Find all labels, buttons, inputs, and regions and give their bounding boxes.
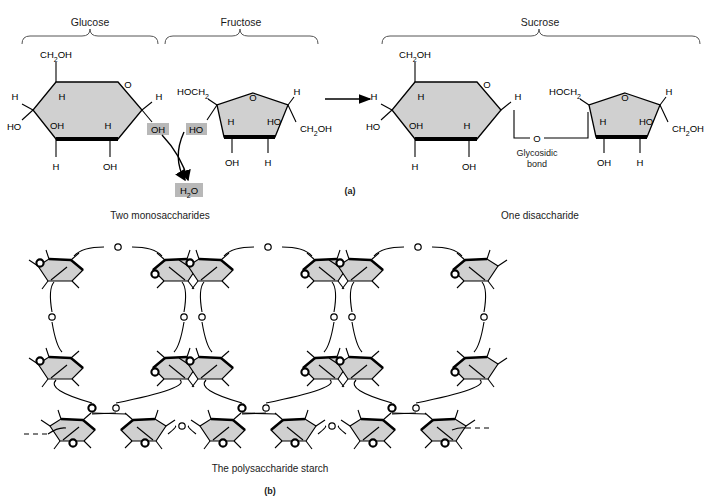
glucose-ring-unit — [188, 357, 233, 379]
bond-line — [208, 410, 211, 419]
bond-line — [199, 259, 221, 260]
bond-line — [433, 419, 455, 420]
bond-path — [132, 247, 162, 256]
bond-line — [71, 351, 79, 358]
bond-line — [204, 441, 210, 449]
bond-line — [487, 348, 490, 357]
bond-line — [187, 348, 190, 357]
bond-line — [221, 253, 229, 260]
glucose-label-h-left: H — [12, 91, 19, 102]
bond-line — [199, 357, 221, 358]
bridge-oxygen-icon — [238, 404, 245, 411]
sucrose-glucose-label-oh-bottom: OH — [462, 161, 476, 172]
bond-path — [474, 322, 484, 352]
bond-line — [54, 441, 60, 449]
bond-path — [432, 247, 462, 256]
glucose-ring-unit — [338, 259, 383, 281]
bond-line — [234, 441, 241, 448]
glucose-label-oh-bottom: OH — [103, 161, 117, 172]
glucose-ring-unit — [38, 259, 83, 281]
bridge-oxygen-icon — [481, 314, 487, 320]
sucrose-fructose-label-ch2oh: CH2OH — [672, 123, 704, 137]
bridge-oxygen-icon — [291, 439, 298, 446]
brace-label-sucrose: Sucrose — [521, 16, 560, 28]
sucrose-fructose-label-ring-o: O — [621, 92, 628, 103]
bond-path — [54, 380, 92, 403]
bond-line — [337, 348, 340, 357]
bond-line — [466, 420, 475, 426]
bond-line — [372, 379, 379, 386]
bridge-oxygen-icon — [115, 244, 121, 250]
bridge-oxygen-icon — [181, 314, 187, 320]
sucrose-glucose-label-h-inner-right: H — [464, 120, 471, 131]
bridge-oxygen-icon — [151, 368, 158, 375]
bond-line — [72, 379, 79, 386]
bond-line — [358, 410, 361, 419]
glucose-label-ho: HO — [7, 121, 21, 132]
glycosidic-oxygen-label: O — [533, 133, 540, 144]
bond-path — [318, 426, 326, 434]
bond-line — [61, 419, 83, 420]
sucrose-fructose-label-h-inner: H — [600, 116, 607, 127]
bond-line — [211, 419, 233, 420]
bond-path — [50, 282, 54, 312]
bond-line — [283, 419, 305, 420]
bridge-oxygen-icon — [336, 357, 343, 364]
sucrose-glucose-label-ch2oh: CH2OH — [399, 49, 431, 63]
bond-path — [174, 322, 184, 352]
bond-line — [307, 281, 314, 288]
bridge-oxygen-icon — [36, 357, 43, 364]
bond-line — [372, 281, 379, 288]
bond-path — [266, 380, 331, 403]
bond-path — [332, 282, 336, 312]
brace-label-fructose: Fructose — [221, 16, 262, 28]
bond-path — [182, 282, 186, 312]
bond-line — [342, 281, 348, 289]
bridge-oxygen-icon — [186, 357, 193, 364]
bridge-oxygen-icon — [36, 259, 43, 266]
bond-line — [384, 441, 391, 448]
bond-line — [498, 260, 507, 266]
bond-line — [191, 420, 200, 426]
bond-line — [221, 351, 229, 358]
bond-line — [42, 281, 48, 289]
bond-line — [342, 379, 348, 387]
bridge-oxygen-icon — [388, 404, 395, 411]
bridge-oxygen-icon — [369, 439, 376, 446]
sucrose-fructose-ring: HOCH2 O H H HO CH2OH OH H — [549, 86, 704, 168]
bridge-oxygen-icon — [415, 244, 421, 250]
bond-line — [457, 253, 465, 260]
caption-two-monosaccharides: Two monosaccharides — [110, 210, 210, 221]
fructose-label-oh-bottom: OH — [225, 157, 239, 168]
bridge-oxygen-icon — [263, 405, 269, 411]
glucose-ring-unit — [271, 419, 316, 441]
bond-path — [224, 247, 254, 256]
chemistry-figure-svg: Glucose Fructose Sucrose CH2OH O H H HO … — [0, 0, 709, 500]
sucrose-fructose-label-h-bottom: H — [637, 157, 644, 168]
starch-polysaccharide-structure — [24, 244, 507, 449]
bridge-oxygen-icon — [329, 423, 335, 429]
bond-line — [275, 413, 283, 420]
panel-label-b: (b) — [264, 486, 276, 496]
bond-line — [72, 281, 79, 288]
glucose-ring-unit — [50, 419, 95, 441]
glucose-label-oh-inner: OH — [50, 120, 64, 131]
bridge-oxygen-icon — [49, 314, 55, 320]
bond-line — [346, 250, 349, 259]
glucose-label-ring-o: O — [124, 79, 131, 90]
caption-one-disaccharide: One disaccharide — [501, 210, 579, 221]
bridge-oxygen-icon — [349, 314, 355, 320]
bond-line — [166, 420, 175, 426]
sucrose-glucose-ring: CH2OH O H H HO OH H H H OH — [366, 49, 522, 172]
glucose-ring-unit — [200, 419, 245, 441]
bridge-oxygen-icon — [336, 259, 343, 266]
bond-line — [337, 250, 340, 259]
brace-sucrose — [382, 29, 700, 44]
bridge-oxygen-icon — [179, 423, 185, 429]
figure-canvas: Glucose Fructose Sucrose CH2OH O H H HO … — [0, 0, 709, 500]
bond-path — [354, 380, 392, 403]
fructose-label-h-top-right: H — [294, 86, 301, 97]
bond-path — [52, 322, 62, 352]
bond-line — [371, 253, 379, 260]
glycosidic-bond-bridge — [514, 110, 588, 138]
